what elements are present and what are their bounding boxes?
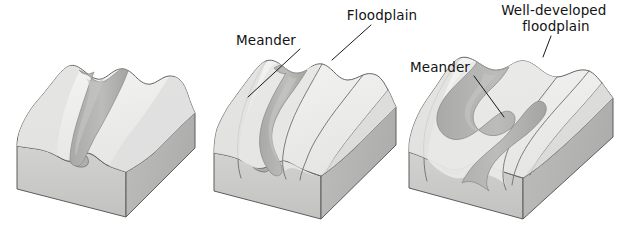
meander-stage-3-text: Meander: [410, 59, 470, 75]
block-stage-3: [409, 57, 613, 219]
well-developed-floodplain-line-1: Well-developed: [501, 2, 606, 18]
figure-canvas: Meander Floodplain Meander Well-develope…: [0, 0, 622, 230]
well-developed-floodplain-text: Well-developed floodplain: [501, 2, 611, 34]
floodplain-stage-2-text: Floodplain: [347, 7, 418, 23]
block-stage-1: [17, 65, 195, 217]
well-developed-floodplain-leader: [543, 36, 551, 57]
well-developed-floodplain-line-2: floodplain: [522, 18, 590, 34]
block-stage-2: [214, 60, 396, 219]
floodplain-stage-2-leader: [332, 25, 371, 60]
label-well-developed-floodplain-stage-3: Well-developed floodplain: [501, 2, 611, 57]
meander-stage-2-text: Meander: [236, 32, 296, 48]
label-floodplain-stage-2: Floodplain: [332, 7, 417, 60]
river-floodplain-figure: Meander Floodplain Meander Well-develope…: [0, 0, 622, 230]
